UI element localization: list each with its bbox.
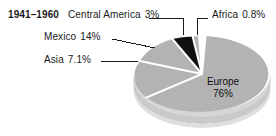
callout-mexico-value: 14% <box>80 31 100 42</box>
callout-asia-name: Asia <box>44 54 64 65</box>
inner-label-europe-name: Europe <box>196 76 250 88</box>
callout-africa-name: Africa <box>212 9 238 20</box>
callout-africa: Africa0.8% <box>212 9 265 20</box>
pie-chart-graphic <box>0 0 276 136</box>
callout-asia-value: 7.1% <box>68 54 91 65</box>
inner-label-europe: Europe 76% <box>196 76 250 100</box>
callout-central-america-value: 3% <box>145 9 160 20</box>
pie-chart-figure: 1941–1960 Central America3% Africa0.8% M… <box>0 0 276 136</box>
callout-africa-value: 0.8% <box>242 9 265 20</box>
inner-label-europe-value: 76% <box>196 88 250 100</box>
callout-central-america: Central America3% <box>68 9 159 20</box>
callout-central-america-name: Central America <box>68 9 141 20</box>
leader-line-africa <box>197 18 208 35</box>
period-label: 1941–1960 <box>8 9 59 20</box>
callout-mexico: Mexico14% <box>44 31 101 42</box>
leader-line-central-america <box>149 18 183 35</box>
callout-mexico-name: Mexico <box>44 31 76 42</box>
leader-line-mexico <box>112 39 155 48</box>
callout-asia: Asia7.1% <box>44 54 91 65</box>
